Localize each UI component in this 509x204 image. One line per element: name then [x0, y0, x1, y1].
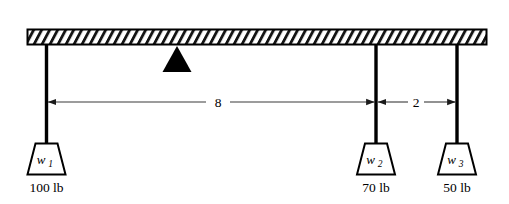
weight-amount-w1: 100 lb [29, 180, 63, 195]
lever-diagram-canvas: w 1 100 lb w 2 70 lb w 3 50 lb 8 [0, 0, 509, 204]
fulcrum-group [163, 46, 192, 72]
weight-subscript-w3: 3 [458, 159, 464, 169]
weight-amount-w3: 50 lb [443, 180, 471, 195]
weight-assembly-w2: w 2 70 lb [357, 45, 395, 195]
weight-subscript-w1: 1 [48, 159, 53, 169]
dimension-2-group: 2 [378, 95, 456, 110]
weight-subscript-w2: 2 [378, 159, 383, 169]
weight-symbol-w3: w [447, 152, 456, 167]
fulcrum-triangle-icon [163, 46, 192, 72]
weight-box-w1 [28, 144, 66, 175]
weight-symbol-w2: w [366, 152, 375, 167]
beam-group [28, 30, 487, 45]
weight-box-w2 [357, 144, 395, 175]
weight-amount-w2: 70 lb [362, 180, 390, 195]
weight-assembly-w1: w 1 100 lb [28, 45, 66, 195]
dimension-8-group: 8 [48, 95, 375, 110]
dimension-8-label: 8 [215, 95, 222, 110]
beam-hatch-fill [28, 30, 486, 44]
dimension-2-label: 2 [413, 95, 420, 110]
weight-symbol-w1: w [37, 152, 46, 167]
weight-box-w3 [438, 144, 476, 175]
lever-diagram-figure: w 1 100 lb w 2 70 lb w 3 50 lb 8 [0, 0, 509, 204]
weight-assembly-w3: w 3 50 lb [438, 45, 476, 195]
